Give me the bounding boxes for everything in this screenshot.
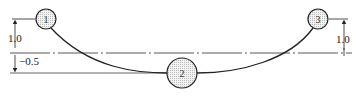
trajectory-diagram: 1.0 −0.5 1.0 1 2 3: [0, 0, 361, 96]
node-1: 1: [36, 9, 56, 29]
left-lower-dimension-label: −0.5: [19, 55, 39, 67]
right-dimension-label: 1.0: [336, 33, 350, 45]
node-3-label: 3: [316, 14, 321, 25]
left-upper-dimension-label: 1.0: [8, 32, 22, 44]
node-2-label: 2: [180, 68, 185, 79]
node-1-label: 1: [44, 14, 49, 25]
node-2: 2: [167, 58, 197, 88]
node-3: 3: [308, 9, 328, 29]
